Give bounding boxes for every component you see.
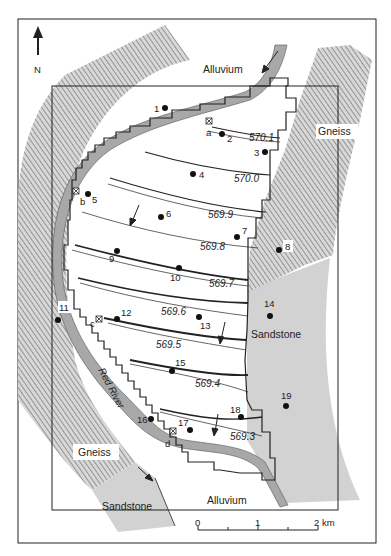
well-19-label: 19: [281, 390, 292, 401]
well-13-label: 13: [200, 320, 211, 331]
scale-tick-2: 2 km: [314, 517, 335, 528]
sandstone-bottom-label: Sandstone: [102, 500, 152, 512]
gauge-b-label: b: [80, 196, 85, 207]
well-5-label: 5: [92, 194, 97, 205]
gneiss-left-label: Gneiss: [78, 446, 111, 458]
gauge-c-label: c: [90, 318, 95, 329]
contour-569-7: 569.7: [209, 278, 234, 289]
contour-569-8: 569.8: [200, 241, 225, 252]
contour-569-9: 569.9: [208, 209, 233, 220]
well-15-label: 15: [175, 357, 186, 368]
contour-570-1: 570.1: [249, 132, 274, 143]
contour-570-0: 570.0: [234, 173, 259, 184]
well-4-label: 4: [199, 169, 204, 180]
well-2-label: 2: [227, 133, 232, 144]
gauge-d-label: d: [165, 438, 170, 449]
well-9-label: 9: [109, 253, 114, 264]
well-17-label: 17: [178, 417, 189, 428]
well-10-label: 10: [170, 272, 181, 283]
well-3-label: 3: [254, 147, 259, 158]
well-18-label: 18: [230, 404, 241, 415]
well-12-label: 12: [121, 307, 132, 318]
alluvium-bottom-label: Alluvium: [207, 494, 247, 506]
well-8-label: 8: [285, 241, 290, 252]
contour-569-5: 569.5: [156, 339, 181, 350]
well-1-label: 1: [154, 103, 159, 114]
contour-569-4: 569.4: [195, 378, 220, 389]
hydrogeologic-map: 570.1 570.0 569.9 569.8 569.7 569.6 569.…: [0, 0, 391, 556]
well-14-label: 14: [264, 298, 275, 309]
sandstone-right-label: Sandstone: [251, 328, 301, 340]
well-11-label: 11: [59, 302, 69, 313]
scale-tick-1: 1: [255, 517, 260, 528]
gauge-a-label: a: [206, 127, 212, 138]
scale-tick-0: 0: [195, 517, 200, 528]
contour-569-3: 569.3: [230, 431, 255, 442]
alluvium-top-label: Alluvium: [203, 63, 243, 75]
north-label: N: [34, 64, 41, 75]
well-16-label: 16: [137, 414, 148, 425]
gneiss-right-label: Gneiss: [318, 125, 351, 137]
well-6-label: 6: [166, 208, 171, 219]
contour-569-6: 569.6: [161, 306, 186, 317]
well-7-label: 7: [242, 225, 247, 236]
